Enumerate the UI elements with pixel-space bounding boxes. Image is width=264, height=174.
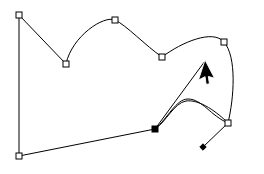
anchor-lower-right[interactable] — [225, 120, 231, 126]
anchor-selected-node[interactable] — [152, 126, 158, 132]
anchor-valley[interactable] — [63, 61, 69, 67]
control-handle-line[interactable] — [203, 123, 228, 147]
drag-guide-line[interactable] — [155, 61, 205, 129]
vector-canvas-svg[interactable] — [0, 0, 264, 174]
mouse-pointer-cursor — [198, 60, 219, 86]
anchor-point-layer[interactable] — [16, 12, 231, 159]
anchor-arch-top[interactable] — [112, 17, 118, 23]
vector-path-editing-canvas[interactable]: Vector path editing canvas — [0, 0, 264, 174]
anchor-top-left[interactable] — [16, 12, 22, 18]
mouse-pointer-arrow-icon — [198, 60, 219, 86]
anchor-bottom-left[interactable] — [16, 153, 22, 159]
main-outline-path[interactable] — [19, 15, 233, 156]
anchor-upper-right[interactable] — [221, 39, 227, 45]
anchor-mid-dip[interactable] — [159, 54, 165, 60]
